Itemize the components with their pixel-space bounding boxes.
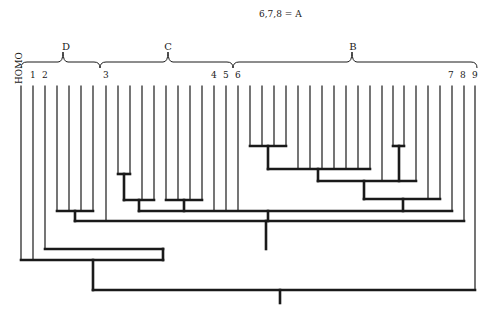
group-brace-c [100,52,233,68]
leaf-label: 9 [472,70,478,80]
leaf-label: 3 [103,70,109,80]
leaf-label: 4 [211,70,217,80]
group-label-d: D [62,41,70,52]
leaf-label: 5 [223,70,229,80]
legend-equation: 6,7,8 = A [259,9,302,19]
leaf-label: 2 [42,70,48,80]
outgroup-label-homo: HOMO [15,52,24,84]
leaf-label: 1 [30,70,36,80]
leaf-label: 8 [460,70,466,80]
group-label-b: B [349,41,356,52]
group-brace-b [233,52,477,68]
group-brace-d [21,52,100,68]
leaf-label: 6 [235,70,241,80]
dendrogram-lines [0,0,495,318]
group-label-c: C [164,41,172,52]
cladogram: 6,7,8 = A D C B HOMO 123456789 [0,0,495,318]
leaf-label: 7 [448,70,454,80]
